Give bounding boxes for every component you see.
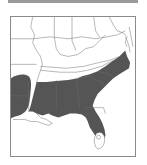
range-map-svg	[11, 17, 135, 156]
unshaded-florida-tip	[94, 132, 104, 149]
range-area-west	[11, 74, 31, 118]
range-map	[10, 16, 136, 157]
top-bar	[8, 0, 138, 3]
range-area-southeast	[29, 51, 130, 144]
